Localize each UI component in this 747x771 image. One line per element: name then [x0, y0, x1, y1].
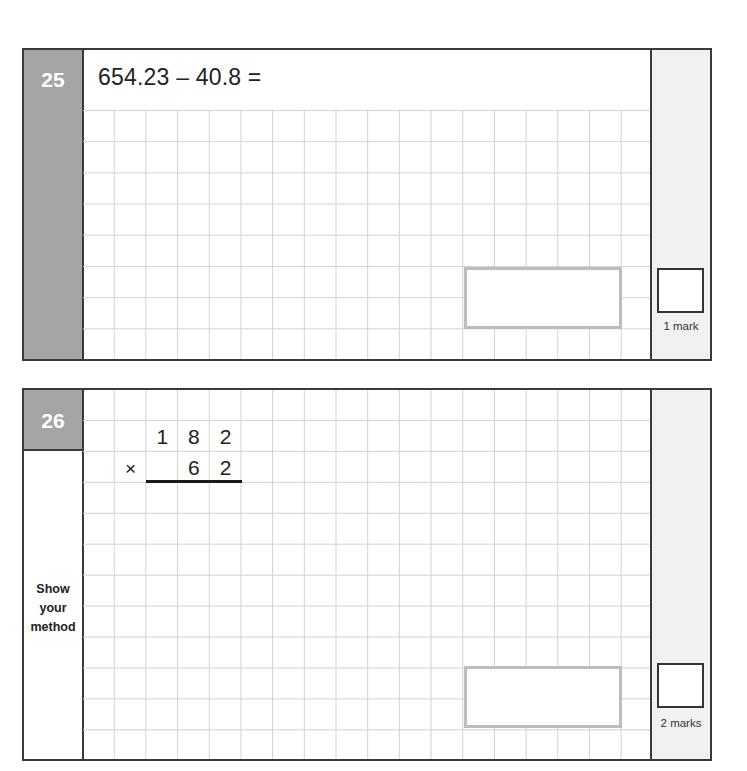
marks-label: 2 marks: [652, 717, 710, 729]
question-number-column: 26 Show your method: [24, 390, 84, 759]
question-prompt: 654.23 – 40.8 =: [98, 64, 262, 91]
question-number-column: 25: [24, 50, 84, 359]
marks-column: 2 marks: [650, 390, 710, 759]
question-number: 26: [24, 390, 82, 451]
answer-box[interactable]: [464, 267, 622, 329]
marks-column: 1 mark: [650, 50, 710, 359]
question-26-panel: 26 Show your method 1 8 2 × 6 2 2 marks: [22, 388, 712, 761]
answer-box[interactable]: [464, 666, 622, 728]
mark-box[interactable]: [657, 663, 704, 708]
show-your-method-instruction: Show your method: [24, 580, 82, 637]
marks-label: 1 mark: [652, 320, 710, 332]
instruction-line: Show: [24, 580, 82, 599]
multiply-sign-icon: ×: [115, 453, 147, 484]
multiplicand-digit: 8: [178, 421, 210, 452]
multiplication-underline: [146, 480, 242, 483]
instruction-line: method: [24, 618, 82, 637]
instruction-line: your: [24, 599, 82, 618]
working-area[interactable]: 1 8 2 × 6 2: [83, 390, 654, 759]
multiplicand-digit: 2: [210, 421, 242, 452]
multiplier-digit: 6: [178, 452, 210, 483]
question-25-panel: 25 654.23 – 40.8 = 1 mark: [22, 48, 712, 361]
multiplicand-digit: 1: [146, 421, 178, 452]
multiplier-digit: 2: [210, 452, 242, 483]
mark-box[interactable]: [657, 268, 704, 313]
question-number: 25: [24, 50, 82, 110]
working-area[interactable]: 654.23 – 40.8 =: [83, 50, 654, 359]
